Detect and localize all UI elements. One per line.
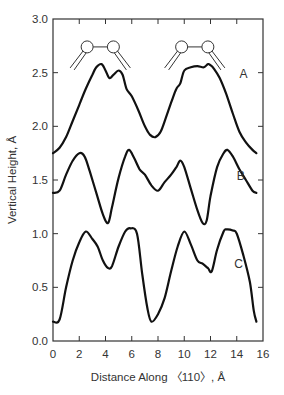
- plot-frame: [53, 19, 263, 341]
- y-axis-title: Vertical Height, Å: [6, 136, 18, 225]
- y-tick-label: 1.5: [32, 174, 48, 186]
- y-tick-label: 2.5: [32, 67, 48, 79]
- curve-a: [53, 64, 256, 153]
- y-tick-label: 0.5: [32, 281, 48, 293]
- series-label-c: C: [234, 257, 243, 271]
- y-tick-label: 0.0: [32, 335, 48, 347]
- molecule-icon: [70, 41, 130, 70]
- x-tick-label: 14: [230, 348, 243, 360]
- x-tick-label: 4: [102, 348, 109, 360]
- series-labels: ABC: [234, 67, 247, 271]
- line-chart: 02468101214160.00.51.01.52.02.53.0 ABC V…: [0, 0, 284, 395]
- x-tick-label: 16: [257, 348, 270, 360]
- y-tick-label: 2.0: [32, 120, 48, 132]
- x-tick-label: 2: [76, 348, 82, 360]
- molecule-schematics: [70, 41, 225, 70]
- curve-b: [53, 150, 256, 224]
- x-tick-label: 6: [129, 348, 135, 360]
- y-tick-label: 1.0: [32, 228, 48, 240]
- x-axis-title: Distance Along 〈110〉, Å: [91, 371, 226, 383]
- x-tick-label: 0: [50, 348, 56, 360]
- x-tick-label: 12: [204, 348, 217, 360]
- plot-axes: 02468101214160.00.51.01.52.02.53.0: [32, 13, 269, 360]
- series-label-a: A: [239, 67, 247, 81]
- series-label-b: B: [237, 169, 245, 183]
- x-tick-label: 10: [178, 348, 191, 360]
- curves: [53, 64, 256, 323]
- curve-c: [53, 228, 256, 323]
- x-tick-label: 8: [155, 348, 161, 360]
- y-tick-label: 3.0: [32, 13, 48, 25]
